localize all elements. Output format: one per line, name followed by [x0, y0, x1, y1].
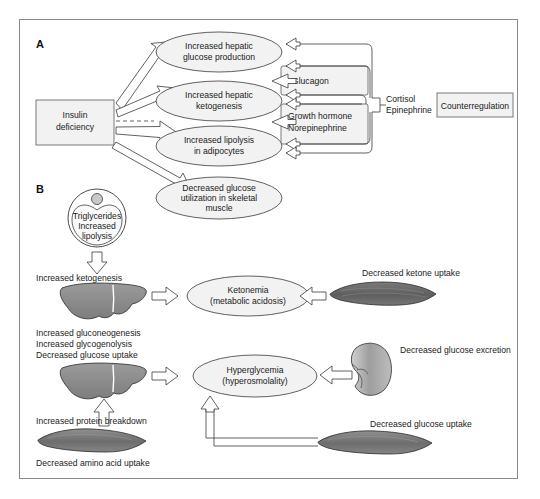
liver-illustration-bottom: [60, 363, 146, 399]
kidney-illustration: [351, 343, 391, 395]
effect1-line1: Increased hepatic: [185, 41, 254, 51]
ketonemia-line2: (metabolic acidosis): [210, 296, 286, 306]
decreased-glucose-excretion-label: Decreased glucose excretion: [400, 345, 511, 355]
arrow-liver-to-hyperglycemia: [152, 367, 178, 385]
hyperglycemia-line2: (hyperosmolality): [222, 376, 288, 386]
hyperglycemia-line1: Hyperglycemia: [227, 365, 284, 375]
arrow-liver-to-ketonemia: [152, 287, 178, 305]
arrow-kidney-to-hyperglycemia: [320, 366, 352, 384]
effect2-line1: Increased hepatic: [185, 90, 254, 100]
adipocyte-line3: lipolysis: [82, 231, 112, 241]
insulin-deficiency-line1: Insulin: [63, 110, 88, 120]
liver-illustration-top: [60, 283, 146, 319]
muscle-illustration-glucose: [318, 431, 432, 454]
effect4-line2: utilization in skeletal: [181, 193, 258, 203]
effect4-line1: Decreased glucose: [182, 183, 256, 193]
growth-hormone-label: Growth hormone: [288, 111, 352, 121]
adipocyte-illustration: Triglycerides Increased lipolysis: [68, 189, 126, 247]
insulin-deficiency-line2: deficiency: [56, 122, 95, 132]
panel-b-letter: B: [36, 183, 44, 195]
effect2-line2: ketogenesis: [196, 101, 242, 111]
diagram-canvas: A Insulin deficiency Increased hepatic g…: [0, 0, 540, 499]
ketonemia-line1: Ketonemia: [227, 285, 268, 295]
figure-root: A Insulin deficiency Increased hepatic g…: [0, 0, 540, 499]
increased-glycogenolysis-label: Increased glycogenolysis: [36, 339, 132, 349]
decreased-amino-acid-uptake-label: Decreased amino acid uptake: [36, 458, 150, 468]
increased-ketogenesis-label: Increased ketogenesis: [36, 273, 122, 283]
decreased-ketone-uptake-label: Decreased ketone uptake: [362, 268, 460, 278]
decreased-glucose-uptake-muscle-label: Decreased glucose uptake: [370, 419, 472, 429]
adipocyte-line2: Increased: [78, 221, 116, 231]
counterregulation-label: Counterregulation: [441, 101, 510, 111]
arrow-muscle-to-hyperglycemia-Lshape: [201, 396, 318, 446]
cortisol-label: Cortisol: [386, 94, 415, 104]
arrow-adipocyte-down: [87, 252, 107, 274]
muscle-illustration-ketone: [330, 282, 436, 305]
decreased-glucose-uptake-liver-label: Decreased glucose uptake: [36, 350, 138, 360]
effect1-line2: glucose production: [183, 52, 255, 62]
cortisol-bracket: [372, 98, 386, 112]
panel-a-letter: A: [36, 38, 44, 50]
effect3-line1: Increased lipolysis: [184, 135, 254, 145]
effect3-line2: in adipocytes: [194, 146, 244, 156]
effect4-line3: muscle: [205, 203, 232, 213]
muscle-illustration-amino: [38, 429, 146, 452]
norepinephrine-label: Norepinephrine: [288, 123, 347, 133]
epinephrine-label: Epinephrine: [386, 105, 432, 115]
adipocyte-line1: Triglycerides: [73, 211, 121, 221]
increased-gluconeogenesis-label: Increased gluconeogenesis: [36, 328, 141, 338]
glucagon-label: Glucagon: [292, 76, 329, 86]
increased-protein-breakdown-label: Increased protein breakdown: [36, 416, 147, 426]
